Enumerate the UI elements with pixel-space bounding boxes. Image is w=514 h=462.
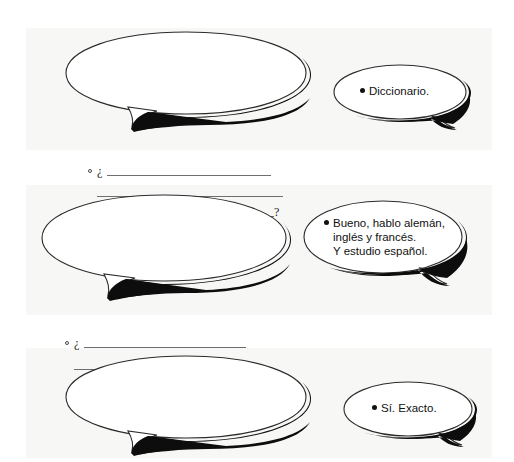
answer-text-2: Bueno, hablo alemán, inglés y francés. Y… xyxy=(324,216,445,258)
answer-line: Bueno, hablo alemán, xyxy=(333,217,445,229)
answer-text-1: Diccionario. xyxy=(360,84,429,98)
answer-line: Diccionario. xyxy=(369,85,429,97)
answer-bubble-1[interactable]: Diccionario. xyxy=(326,62,482,142)
bullet-icon xyxy=(324,220,329,225)
answer-bubble-2[interactable]: Bueno, hablo alemán, inglés y francés. Y… xyxy=(296,197,478,297)
answer-bubble-3[interactable]: Sí. Exacto. xyxy=(336,380,486,458)
prompt-bubble-1[interactable]: ¿ ? xyxy=(58,28,320,138)
answer-line: Sí. Exacto. xyxy=(381,402,437,414)
exercise-row-1: ¿ ? Diccionario. xyxy=(0,0,514,160)
answer-line: Y estudio español. xyxy=(324,244,445,258)
prompt-bubble-3[interactable]: ¿ ? xyxy=(58,352,320,460)
worksheet-page: ¿ ? Diccionario. xyxy=(0,0,514,462)
prompt-bubble-2[interactable]: ¿ ? xyxy=(34,190,302,308)
exercise-row-2: ¿ ? Bueno, hablo alemán, inglés y francé… xyxy=(0,170,514,320)
bullet-icon xyxy=(372,405,377,410)
answer-line: inglés y francés. xyxy=(324,230,445,244)
exercise-row-3: ¿ ? Sí. Exacto. xyxy=(0,338,514,462)
answer-text-3: Sí. Exacto. xyxy=(372,401,437,415)
bullet-icon xyxy=(360,88,365,93)
